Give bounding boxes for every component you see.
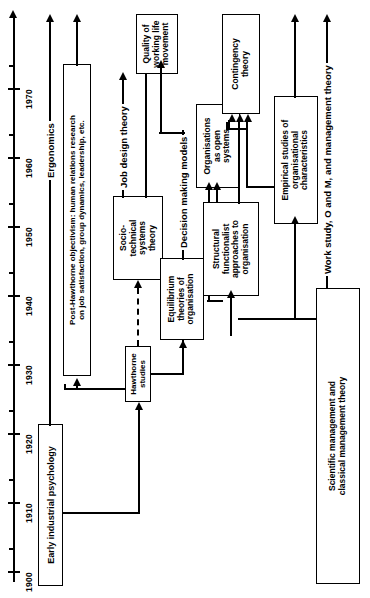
conn-sciman-to-empirical-arrowhead-icon — [291, 216, 299, 224]
post-hawthorne-out-arrowhead-icon — [73, 14, 81, 22]
axis-tick-1910 — [8, 502, 20, 504]
axis-label-1940: 1940 — [24, 296, 34, 316]
axis-tick-1940 — [8, 295, 20, 297]
box-scientific-management-label: Scientific management and classical mana… — [328, 291, 347, 581]
ergonomics-arrowhead-icon — [46, 14, 54, 22]
conn-eip-to-hawthorne-arrowhead-icon — [135, 402, 143, 410]
axis-label-1920: 1920 — [24, 434, 34, 454]
box-hawthorne-studies[interactable]: Hawthorne studies — [125, 346, 151, 402]
box-post-hawthorne-objectivism[interactable]: Post-Hawthorne objectivism: human relati… — [63, 64, 91, 376]
flow-label-work-study: Work study, O and M, and management theo… — [322, 63, 333, 276]
box-structural-functionalist-label: Structural functionalist approaches to o… — [212, 204, 251, 294]
axis-tick-1920 — [8, 433, 20, 435]
conn-into-equilibrium-arrowhead-icon — [179, 340, 187, 348]
conn-contingency-in-3-arrowhead-icon — [244, 114, 252, 122]
conn-hawthorne-to-posth-h — [64, 388, 130, 390]
conn-structfunc-to-contingency — [238, 122, 240, 204]
axis-tick-1930 — [8, 364, 20, 366]
axis-minor-tick-1925 — [9, 410, 15, 412]
post-hawthorne-out-line — [76, 22, 78, 66]
flow-label-decision-making-models: Decision making models — [178, 135, 189, 250]
conn-into-opensys-2-arrowhead-icon — [213, 182, 221, 190]
axis-minor-tick-1905 — [9, 548, 15, 550]
conn-contingency-in-2-arrowhead-icon — [236, 114, 244, 122]
axis-line — [13, 18, 15, 582]
empirical-out-arrowhead-icon — [291, 14, 299, 22]
axis-tick-1950 — [8, 226, 20, 228]
axis-minor-tick-1935 — [9, 341, 15, 343]
conn-hawthorne-to-posth-stub — [76, 384, 78, 390]
axis-minor-tick-1965 — [9, 134, 15, 136]
theory-development-diagram: 1900 1910 1920 1930 1940 1950 1960 1970 … — [0, 0, 370, 598]
box-empirical-studies-label: Empirical studies of organisational char… — [281, 98, 310, 222]
conn-eip-to-hawthorne-v — [138, 410, 140, 514]
axis-arrowhead-icon — [9, 10, 17, 18]
box-equilibrium-theories-label: Equilibrium theories of organisation — [167, 260, 196, 338]
conn-into-structfunc — [230, 296, 232, 336]
axis-minor-tick-1975 — [9, 65, 15, 67]
axis-label-1960: 1960 — [24, 158, 34, 178]
job-design-arrowhead-icon — [119, 72, 127, 80]
flow-label-ergonomics: Ergonomics — [45, 121, 56, 180]
conn-sciman-to-empirical-h — [238, 318, 326, 320]
ergonomics-arrow-line — [49, 22, 51, 426]
conn-into-opensys-1-arrowhead-icon — [205, 182, 213, 190]
axis-tick-1970 — [8, 88, 20, 90]
axis-minor-tick-1955 — [9, 203, 15, 205]
box-early-industrial-psychology-label: Early industrial psychology — [45, 427, 55, 583]
box-early-industrial-psychology[interactable]: Early industrial psychology — [38, 424, 63, 586]
conn-hawthorne-to-sociotech-arrowhead-icon — [134, 280, 142, 288]
conn-eip-to-hawthorne-h — [62, 512, 140, 514]
flow-label-job-design-theory: Job design theory — [118, 104, 129, 190]
conn-hawthorne-to-sociotech-dashed — [137, 288, 139, 346]
axis-label-1900: 1900 — [24, 572, 34, 592]
empirical-out-line — [294, 22, 296, 98]
box-post-hawthorne-objectivism-label: Post-Hawthorne objectivism: human relati… — [68, 67, 86, 373]
box-contingency-theory-label: Contingency theory — [231, 16, 250, 112]
axis-minor-tick-1915 — [9, 479, 15, 481]
conn-contingency-in-1-arrowhead-icon — [228, 114, 236, 122]
box-socio-technical-systems-theory-label: Socio- technical systems theory — [119, 198, 158, 278]
conn-to-qwl-second — [160, 68, 162, 134]
axis-tick-1900 — [8, 571, 20, 573]
axis-tick-1960 — [8, 157, 20, 159]
conn-into-structfunc-arrowhead-icon — [227, 290, 235, 298]
conn-empirical-to-contingency-v — [246, 122, 248, 188]
conn-sciman-to-empirical-v — [294, 222, 296, 320]
conn-into-opensys-1-h — [207, 300, 223, 302]
box-equilibrium-theories[interactable]: Equilibrium theories of organisation — [160, 258, 204, 340]
box-structural-functionalist[interactable]: Structural functionalist approaches to o… — [203, 202, 259, 296]
conn-sociotech-to-qwl — [145, 68, 147, 198]
box-empirical-studies[interactable]: Empirical studies of organisational char… — [274, 96, 318, 224]
conn-hawthorne-right-h — [150, 373, 184, 375]
axis-label-1910: 1910 — [24, 503, 34, 523]
axis-label-1970: 1970 — [24, 89, 34, 109]
box-scientific-management[interactable]: Scientific management and classical mana… — [316, 288, 360, 584]
axis-label-1950: 1950 — [24, 227, 34, 247]
work-study-arrowhead-icon — [323, 14, 331, 22]
conn-to-qwl-second-arrowhead-icon — [157, 60, 165, 68]
box-hawthorne-studies-label: Hawthorne studies — [129, 348, 147, 400]
box-socio-technical-systems-theory[interactable]: Socio- technical systems theory — [113, 196, 163, 280]
box-contingency-theory[interactable]: Contingency theory — [222, 14, 260, 114]
axis-minor-tick-1945 — [9, 272, 15, 274]
axis-label-1930: 1930 — [24, 365, 34, 385]
conn-hawthorne-to-posth-v — [64, 384, 66, 390]
